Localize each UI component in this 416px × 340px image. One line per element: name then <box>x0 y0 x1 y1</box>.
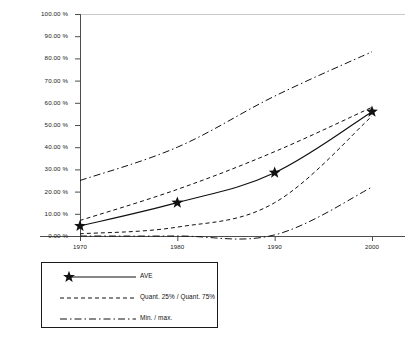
chart-data-point-star-marker <box>171 197 183 208</box>
x-axis-tick-label: 1970 <box>60 243 100 250</box>
chart-series-line <box>80 112 372 226</box>
legend-item-label: Quant. 25% / Quant. 75% <box>140 292 215 302</box>
chart-figure: 0.00 %10.00 %20.00 %30.00 %40.00 %50.00 … <box>0 0 416 340</box>
legend-item: Quant. 25% / Quant. 75% <box>42 292 217 310</box>
y-axis-tick-label: 0.00 % <box>22 232 68 239</box>
x-axis-tick-label: 2000 <box>352 243 392 250</box>
legend-item-label: AVE <box>140 271 153 281</box>
legend-swatch <box>60 313 136 323</box>
x-axis-tick-label: 1980 <box>157 243 197 250</box>
y-axis-tick-label: 90.00 % <box>22 32 68 39</box>
y-axis-tick-label: 100.00 % <box>22 10 68 17</box>
y-axis-tick-label: 70.00 % <box>22 77 68 84</box>
chart-marker-layer <box>74 105 378 231</box>
y-axis-tick-label: 50.00 % <box>22 121 68 128</box>
chart-series-line <box>80 187 372 239</box>
legend-item-label: Min. / max. <box>140 313 172 323</box>
legend-item: AVE <box>42 271 217 289</box>
chart-legend: AVEQuant. 25% / Quant. 75%Min. / max. <box>41 262 218 328</box>
chart-series-line <box>80 52 372 181</box>
x-axis-tick-label: 1990 <box>255 243 295 250</box>
chart-series-line <box>80 107 372 220</box>
y-axis-tick-label: 40.00 % <box>22 143 68 150</box>
legend-swatch <box>60 271 136 281</box>
chart-data-point-star-marker <box>269 167 281 178</box>
y-axis-tick-label: 60.00 % <box>22 99 68 106</box>
y-axis-tick-label: 10.00 % <box>22 210 68 217</box>
legend-item: Min. / max. <box>42 313 217 331</box>
y-axis-tick-label: 20.00 % <box>22 188 68 195</box>
y-axis-tick-label: 30.00 % <box>22 165 68 172</box>
y-axis-tick-label: 80.00 % <box>22 54 68 61</box>
chart-series-layer <box>80 52 372 239</box>
y-axis-ticks <box>75 15 80 237</box>
legend-swatch <box>60 292 136 302</box>
